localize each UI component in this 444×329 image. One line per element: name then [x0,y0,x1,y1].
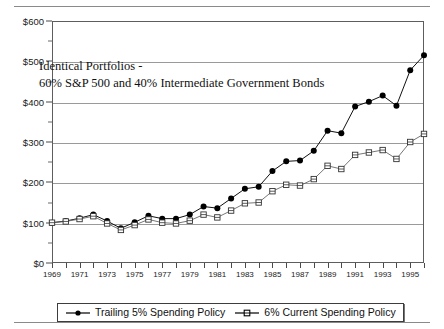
x-tick-mark [162,263,163,268]
data-point-marker [201,212,206,217]
data-point-marker [228,208,233,213]
x-tick-mark [135,263,136,268]
data-point-marker [297,158,303,164]
data-point-marker [352,152,357,157]
x-tick-mark [176,263,177,268]
x-tick-mark [217,263,218,268]
data-point-marker [393,103,399,109]
x-tick-label: 1995 [401,270,419,279]
series-line [52,134,424,230]
x-tick-mark [410,263,411,268]
x-tick-mark [107,263,108,268]
data-point-marker [242,201,247,206]
data-point-marker [311,148,317,154]
y-tick-label: $300 [23,137,44,148]
legend-entry-6-percent-current: 6% Current Spending Policy [234,307,395,318]
x-tick-mark [314,263,315,268]
data-point-marker [366,150,371,155]
x-tick-label: 1969 [43,270,61,279]
data-point-marker [338,130,344,136]
x-tick-mark [148,263,149,268]
data-point-marker [173,221,178,226]
annotation-line-2: 60% S&P 500 and 40% Intermediate Governm… [39,75,324,92]
annotation-line-1: Identical Portfolios - [39,58,324,75]
x-tick-mark [190,263,191,268]
data-point-marker [269,168,275,174]
data-point-marker [118,227,123,232]
legend-label-6-percent-current: 6% Current Spending Policy [264,307,395,318]
x-tick-mark [341,263,342,268]
x-tick-label: 1987 [291,270,309,279]
data-point-marker [325,128,331,134]
data-point-marker [242,186,248,192]
data-point-marker [408,139,413,144]
x-tick-label: 1971 [71,270,89,279]
data-point-marker [283,158,289,164]
x-tick-label: 1991 [346,270,364,279]
x-tick-mark [121,263,122,268]
x-tick-label: 1973 [98,270,116,279]
x-tick-mark [424,263,425,268]
data-point-marker [187,212,193,218]
data-point-marker [270,189,275,194]
y-tick-label: $400 [23,96,44,107]
y-tick-label: $600 [23,16,44,27]
data-point-marker [380,147,385,152]
data-point-marker [256,184,262,190]
data-point-marker [77,216,82,221]
x-tick-mark [300,263,301,268]
data-point-marker [146,217,151,222]
data-point-marker [352,104,358,110]
x-tick-mark [93,263,94,268]
x-tick-mark [204,263,205,268]
data-point-marker [228,195,234,201]
top-divider-rule [14,6,430,7]
chart-legend: Trailing 5% Spending Policy 6% Current S… [57,303,404,322]
data-point-marker [91,214,96,219]
x-tick-mark [52,263,53,268]
x-tick-mark [66,263,67,268]
x-tick-label: 1977 [153,270,171,279]
legend-label-trailing-5-percent: Trailing 5% Spending Policy [95,307,225,318]
y-tick-label: $200 [23,177,44,188]
data-point-marker [407,67,413,73]
x-tick-mark [245,263,246,268]
x-tick-label: 1979 [181,270,199,279]
data-point-marker [325,163,330,168]
data-point-marker [256,200,261,205]
data-point-marker [394,156,399,161]
data-point-marker [311,176,316,181]
data-point-marker [49,220,54,225]
x-tick-mark [272,263,273,268]
chart-figure: $0$100$200$300$400$500$600 Identical Por… [0,0,444,329]
data-point-marker [201,204,207,210]
x-axis-labels: 1969197119731975197719791981198319851987… [0,270,444,284]
x-tick-mark [259,263,260,268]
data-point-marker [284,182,289,187]
data-point-marker [366,99,372,105]
data-point-marker [297,183,302,188]
data-point-marker [132,222,137,227]
legend-entry-trailing-5-percent: Trailing 5% Spending Policy [65,307,225,318]
data-point-marker [380,93,386,99]
x-tick-mark [355,263,356,268]
x-tick-label: 1983 [236,270,254,279]
x-tick-label: 1989 [319,270,337,279]
y-tick-label: $0 [33,258,44,269]
x-tick-label: 1975 [126,270,144,279]
x-tick-mark [369,263,370,268]
y-tick-label: $100 [23,217,44,228]
data-point-marker [215,215,220,220]
data-point-marker [160,220,165,225]
x-tick-mark [80,263,81,268]
bottom-divider-rule [14,322,430,323]
chart-annotation: Identical Portfolios - 60% S&P 500 and 4… [39,58,324,92]
data-point-marker [421,131,426,136]
x-tick-label: 1993 [374,270,392,279]
x-tick-mark [231,263,232,268]
open-square-marker-icon [234,308,260,318]
x-tick-mark [396,263,397,268]
filled-circle-marker-icon [65,308,91,318]
data-point-marker [214,205,220,211]
data-point-marker [339,166,344,171]
